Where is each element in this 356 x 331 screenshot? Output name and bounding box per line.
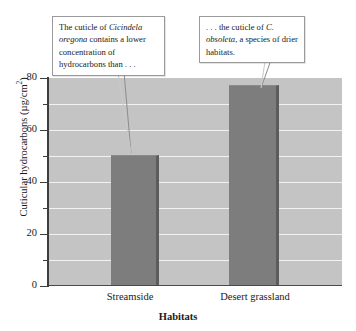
x-tick-label-desert-grassland: Desert grassland <box>195 291 315 302</box>
y-tick-40 <box>40 182 47 183</box>
x-tick-label-streamside: Streamside <box>80 291 180 302</box>
callout-2-text-1: . . . the cuticle of <box>206 22 266 32</box>
y-tick-70 <box>43 104 47 105</box>
y-axis-title: Cuticular hydrocarbons (µg/cm2) <box>15 47 29 247</box>
y-axis-title-main: Cuticular hydrocarbons (µg/cm <box>18 84 29 216</box>
y-tick-60 <box>40 130 47 131</box>
callout-desert-grassland: . . . the cuticle of C. obsoleta, a spec… <box>199 16 305 63</box>
y-axis-title-exponent: 2 <box>15 81 24 85</box>
gridline-60 <box>49 130 342 131</box>
y-tick-0 <box>40 286 47 287</box>
y-tick-label-0: 0 <box>32 280 37 291</box>
y-tick-30 <box>43 208 47 209</box>
gridline-50 <box>49 156 342 157</box>
y-tick-10 <box>43 260 47 261</box>
gridline-10 <box>49 260 342 261</box>
bar-streamside[interactable] <box>111 155 159 285</box>
gridline-30 <box>49 208 342 209</box>
bar-chart-figure: 80 60 40 20 0 Cuticular hydrocarbons (µg… <box>0 0 356 331</box>
y-axis-line <box>47 77 49 287</box>
y-tick-80 <box>40 78 47 79</box>
plot-area <box>48 78 342 286</box>
bar-desert-grassland[interactable] <box>229 85 279 285</box>
y-axis-title-close: ) <box>18 77 29 81</box>
y-tick-20 <box>40 234 47 235</box>
callout-1-text-1: The cuticle of <box>59 22 109 32</box>
gridline-40 <box>49 182 342 183</box>
y-tick-50 <box>43 156 47 157</box>
gridline-20 <box>49 234 342 235</box>
callout-streamside: The cuticle of Cicindela oregona contain… <box>52 16 165 76</box>
x-axis-title: Habitats <box>0 311 356 322</box>
gridline-70 <box>49 104 342 105</box>
